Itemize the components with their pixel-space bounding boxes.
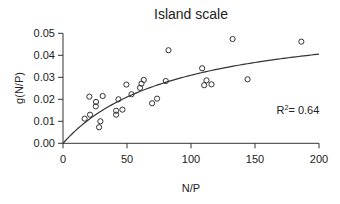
data-point — [200, 66, 205, 71]
data-point — [230, 36, 235, 41]
chart-container: Island scale 0.000.010.020.030.040.05050… — [0, 0, 340, 204]
y-tick-label: 0.01 — [34, 115, 55, 127]
r-squared-annotation: R2= 0.64 — [277, 104, 320, 116]
r2-base: R — [277, 104, 285, 116]
scatter-plot: Island scale 0.000.010.020.030.040.05050… — [0, 0, 340, 204]
data-point — [209, 82, 214, 87]
data-point — [149, 101, 154, 106]
data-point — [204, 78, 209, 83]
y-tick-label: 0.03 — [34, 71, 55, 83]
chart-title: Island scale — [154, 6, 228, 22]
y-tick-label: 0.00 — [34, 137, 55, 149]
x-tick-label: 50 — [121, 153, 133, 165]
x-tick-label: 0 — [60, 153, 66, 165]
y-axis-label: g(N/P) — [13, 72, 25, 104]
data-points — [82, 36, 304, 129]
data-point — [96, 125, 101, 130]
axes: 0.000.010.020.030.040.05050100150200 — [34, 27, 329, 165]
y-tick-label: 0.02 — [34, 93, 55, 105]
data-point — [299, 39, 304, 44]
y-tick-label: 0.05 — [34, 27, 55, 39]
x-tick-label: 100 — [182, 153, 200, 165]
data-point — [124, 82, 129, 87]
x-tick-label: 150 — [246, 153, 264, 165]
data-point — [120, 107, 125, 112]
r2-value: = 0.64 — [288, 104, 319, 116]
x-tick-label: 200 — [310, 153, 328, 165]
data-point — [166, 48, 171, 53]
data-point — [100, 93, 105, 98]
data-point — [154, 96, 159, 101]
data-point — [82, 116, 87, 121]
data-point — [87, 94, 92, 99]
data-point — [245, 77, 250, 82]
y-tick-label: 0.04 — [34, 49, 55, 61]
x-axis-label: N/P — [182, 182, 200, 194]
data-point — [98, 119, 103, 124]
data-point — [87, 112, 92, 117]
